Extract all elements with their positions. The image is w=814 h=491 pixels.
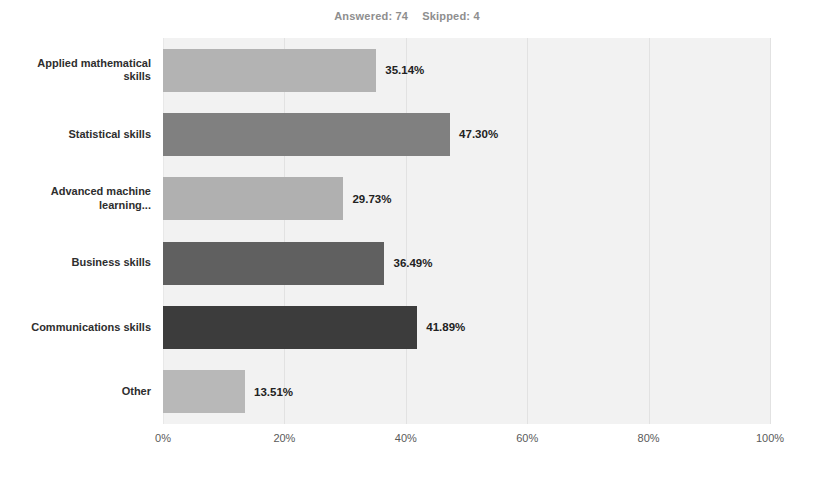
bar[interactable] [163, 370, 245, 413]
bar-row: Applied mathematical skills35.14% [0, 38, 814, 102]
x-tick-label: 80% [638, 432, 660, 444]
category-label: Applied mathematical skills [28, 57, 163, 84]
x-tick-label: 60% [516, 432, 538, 444]
bar-container: 35.14% [163, 38, 814, 102]
bar[interactable] [163, 242, 384, 285]
category-label: Business skills [28, 256, 163, 270]
bar[interactable] [163, 177, 343, 220]
bar-rows: Applied mathematical skills35.14%Statist… [0, 38, 814, 424]
bar[interactable] [163, 306, 417, 349]
category-label: Statistical skills [28, 128, 163, 142]
category-label: Other [28, 385, 163, 399]
bar-value-label: 36.49% [393, 257, 432, 269]
category-label: Advanced machine learning... [28, 185, 163, 212]
x-tick-label: 100% [756, 432, 784, 444]
x-axis: 0%20%40%60%80%100% [163, 432, 770, 456]
bar-value-label: 29.73% [352, 193, 391, 205]
horizontal-bar-chart: Applied mathematical skills35.14%Statist… [0, 0, 814, 491]
x-tick-label: 40% [395, 432, 417, 444]
bar-container: 13.51% [163, 360, 814, 424]
bar-value-label: 13.51% [254, 386, 293, 398]
category-label: Communications skills [28, 321, 163, 335]
bar-container: 47.30% [163, 102, 814, 166]
bar-container: 41.89% [163, 295, 814, 359]
x-tick-label: 0% [155, 432, 171, 444]
bar-row: Business skills36.49% [0, 231, 814, 295]
bar[interactable] [163, 49, 376, 92]
bar-container: 29.73% [163, 167, 814, 231]
bar-row: Other13.51% [0, 360, 814, 424]
bar-row: Advanced machine learning...29.73% [0, 167, 814, 231]
bar-value-label: 41.89% [426, 321, 465, 333]
x-tick-label: 20% [273, 432, 295, 444]
bar-row: Statistical skills47.30% [0, 102, 814, 166]
bar-row: Communications skills41.89% [0, 295, 814, 359]
bar-container: 36.49% [163, 231, 814, 295]
bar-value-label: 47.30% [459, 128, 498, 140]
bar[interactable] [163, 113, 450, 156]
bar-value-label: 35.14% [385, 64, 424, 76]
